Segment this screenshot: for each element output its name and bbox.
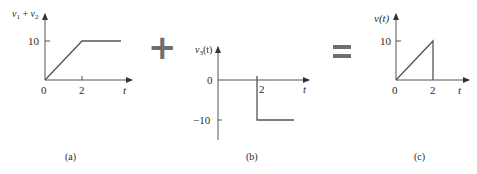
x-tick-label-2: 2 bbox=[259, 83, 265, 95]
x-tick-label-2: 2 bbox=[430, 84, 436, 96]
x-axis-label: t bbox=[458, 84, 462, 96]
waveform-v-total bbox=[396, 41, 433, 80]
y-tick-label-10: 10 bbox=[28, 35, 40, 47]
panel-c: v(t) 10 0 2 t (c) bbox=[374, 12, 469, 163]
y-tick-label-10: 10 bbox=[380, 35, 392, 47]
y-axis-label: v(t) bbox=[374, 12, 390, 25]
panel-a: v1 + v2 10 0 2 t (a) bbox=[12, 8, 132, 163]
panel-caption: (c) bbox=[414, 151, 425, 163]
y-axis-label: v3(t) bbox=[195, 44, 212, 57]
x-tick-label-2: 2 bbox=[79, 84, 85, 96]
y-tick-label-minus-10: −10 bbox=[193, 114, 211, 126]
panel-caption: (b) bbox=[246, 151, 258, 163]
panel-caption: (a) bbox=[65, 151, 76, 163]
x-axis-label: t bbox=[303, 83, 307, 95]
x-tick-label-0: 0 bbox=[41, 84, 47, 96]
plus-operator: + bbox=[148, 27, 177, 67]
panel-b: v3(t) 0 −10 2 t (b) bbox=[193, 44, 309, 163]
equals-operator bbox=[333, 45, 351, 58]
x-tick-label-0: 0 bbox=[392, 84, 398, 96]
y-axis-label: v1 + v2 bbox=[12, 8, 39, 21]
x-axis-label: t bbox=[123, 84, 127, 96]
waveform-sum-diagram: v1 + v2 10 0 2 t (a) + v3(t) 0 −10 2 t (… bbox=[0, 0, 477, 174]
y-tick-label-0: 0 bbox=[207, 74, 213, 86]
waveform-v1-plus-v2 bbox=[45, 41, 121, 80]
